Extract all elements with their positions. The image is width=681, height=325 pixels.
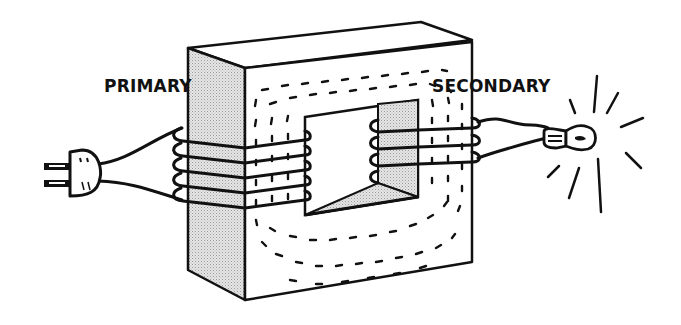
primary-leads [98,128,182,200]
light-bulb [544,76,643,212]
secondary-label: SECONDARY [432,76,551,96]
secondary-leads [478,119,548,158]
primary-label: PRIMARY [104,76,192,96]
bulb-base [544,129,566,148]
power-plug [44,150,101,196]
transformer-diagram: PRIMARY SECONDARY [0,0,681,325]
